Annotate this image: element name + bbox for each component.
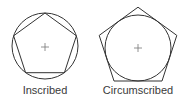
circumscribed-diagram <box>99 7 177 81</box>
inscribed-label: Inscribed <box>10 84 80 96</box>
center-cross-icon <box>41 43 49 51</box>
center-cross-icon <box>134 44 142 52</box>
inscribed-diagram <box>12 13 78 79</box>
circumscribed-label: Circumscribed <box>98 84 178 96</box>
